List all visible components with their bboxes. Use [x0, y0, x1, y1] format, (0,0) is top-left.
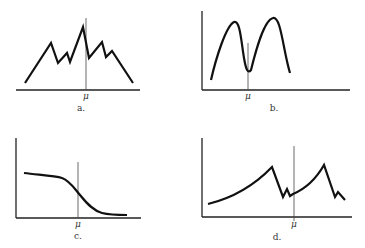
curve-d [208, 165, 345, 204]
panel-a [16, 18, 140, 90]
curve-c [24, 173, 127, 215]
curve-a [25, 27, 133, 83]
mean-label-b: μ [245, 91, 251, 101]
mean-label-a: μ [83, 91, 89, 101]
curve-b [211, 18, 290, 80]
caption-c: c. [74, 231, 82, 241]
mean-label-c: μ [75, 219, 81, 229]
caption-d: d. [273, 232, 282, 242]
figure-canvas [0, 0, 365, 248]
caption-b: b. [270, 103, 279, 113]
panel-b [202, 11, 350, 90]
panel-c [16, 138, 141, 218]
mean-label-d: μ [291, 219, 297, 229]
panel-d [202, 138, 352, 221]
caption-a: a. [77, 103, 85, 113]
